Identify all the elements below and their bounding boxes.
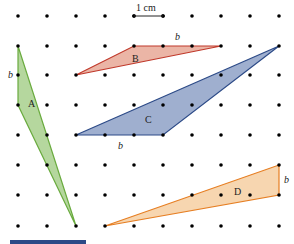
- grid-dot: [277, 44, 281, 48]
- grid-dot: [219, 163, 223, 167]
- grid-dot: [103, 163, 107, 167]
- grid-dot: [16, 44, 20, 48]
- grid-dot: [16, 163, 20, 167]
- grid-dot: [74, 163, 78, 167]
- grid-dot: [103, 193, 107, 197]
- grid-dot: [248, 163, 252, 167]
- grid-dot: [277, 163, 281, 167]
- grid-dot: [190, 163, 194, 167]
- grid-dot: [161, 73, 165, 77]
- grid-dot: [132, 133, 136, 137]
- grid-dot: [74, 133, 78, 137]
- grid-dot: [103, 44, 107, 48]
- grid-dot: [277, 103, 281, 107]
- base-label-c: b: [118, 140, 123, 151]
- grid-dot: [132, 193, 136, 197]
- grid-dot: [219, 14, 223, 18]
- grid-dot: [190, 224, 194, 228]
- grid-dot: [45, 133, 49, 137]
- triangle-label-a: A: [28, 98, 36, 109]
- bottom-bar: [10, 240, 86, 244]
- scale-bar: 1 cm: [134, 2, 163, 16]
- grid-dot: [45, 103, 49, 107]
- grid-dot: [16, 193, 20, 197]
- grid-dot: [248, 103, 252, 107]
- grid-dot: [16, 73, 20, 77]
- grid-dot: [132, 44, 136, 48]
- dot-grid-canvas: AbBbCbDb 1 cm: [0, 0, 294, 244]
- grid-dot: [74, 103, 78, 107]
- grid-dot: [103, 73, 107, 77]
- grid-dot: [161, 103, 165, 107]
- grid-dot: [132, 224, 136, 228]
- grid-dot: [132, 103, 136, 107]
- grid-dot: [16, 14, 20, 18]
- grid-dot: [248, 14, 252, 18]
- grid-dot: [74, 14, 78, 18]
- grid-dot: [103, 224, 107, 228]
- grid-dot: [45, 73, 49, 77]
- grid-dot: [16, 133, 20, 137]
- grid-dot: [248, 73, 252, 77]
- grid-dot: [16, 224, 20, 228]
- grid-dot: [277, 224, 281, 228]
- grid-dot: [45, 44, 49, 48]
- geometry-diagram: AbBbCbDb 1 cm: [0, 0, 294, 244]
- grid-dot: [161, 44, 165, 48]
- base-label-a: b: [8, 69, 13, 80]
- base-label-b: b: [175, 31, 180, 42]
- grid-dot: [16, 103, 20, 107]
- grid-dot: [45, 224, 49, 228]
- grid-dot: [219, 44, 223, 48]
- grid-dot: [161, 133, 165, 137]
- grid-dot: [103, 133, 107, 137]
- grid-dot: [161, 224, 165, 228]
- grid-dot: [219, 224, 223, 228]
- grid-dot: [74, 224, 78, 228]
- grid-dot: [219, 193, 223, 197]
- triangle-label-d: D: [234, 186, 241, 197]
- grid-dot: [248, 224, 252, 228]
- grid-dot: [190, 193, 194, 197]
- grid-dot: [219, 133, 223, 137]
- grid-dot: [248, 133, 252, 137]
- grid-dot: [74, 44, 78, 48]
- scale-bar-label: 1 cm: [136, 2, 156, 13]
- grid-dot: [45, 163, 49, 167]
- grid-dot: [277, 73, 281, 77]
- grid-dot: [190, 133, 194, 137]
- grid-dot: [74, 73, 78, 77]
- grid-dot: [219, 103, 223, 107]
- grid-dot: [190, 103, 194, 107]
- grid-dot: [277, 133, 281, 137]
- grid-dot: [45, 14, 49, 18]
- grid-dot: [132, 73, 136, 77]
- grid-dot: [45, 193, 49, 197]
- grid-dot: [74, 193, 78, 197]
- grid-dot: [132, 163, 136, 167]
- triangles: [18, 46, 279, 226]
- triangle-label-c: C: [145, 114, 152, 125]
- grid-dot: [190, 14, 194, 18]
- grid-dot: [103, 103, 107, 107]
- grid-dot: [248, 193, 252, 197]
- grid-dot: [161, 193, 165, 197]
- triangle-b: [76, 46, 221, 75]
- grid-dot: [277, 193, 281, 197]
- grid-dot: [190, 44, 194, 48]
- grid-dot: [219, 73, 223, 77]
- grid-dot: [190, 73, 194, 77]
- grid-dot: [248, 44, 252, 48]
- base-label-d: b: [284, 174, 289, 185]
- triangle-label-b: B: [132, 53, 139, 64]
- grid-dot: [103, 14, 107, 18]
- grid-dot: [277, 14, 281, 18]
- grid-dot: [161, 163, 165, 167]
